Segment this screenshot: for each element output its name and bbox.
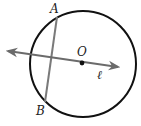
line-l bbox=[8, 51, 118, 67]
label-o: O bbox=[77, 45, 87, 59]
label-l: ℓ bbox=[97, 68, 102, 82]
chord-ab bbox=[45, 17, 57, 102]
label-b: B bbox=[35, 104, 45, 118]
geometry-diagram: A B O ℓ bbox=[0, 0, 141, 126]
center-point-o bbox=[80, 61, 85, 66]
label-a: A bbox=[49, 2, 59, 16]
